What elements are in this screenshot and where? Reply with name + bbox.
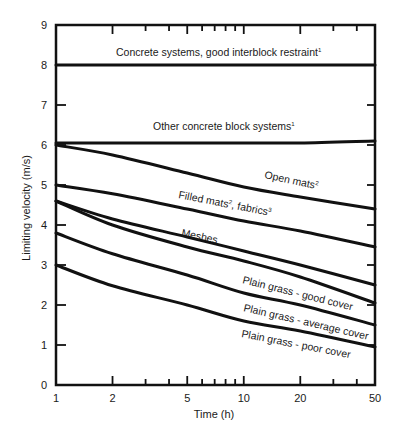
x-axis-label: Time (h) xyxy=(194,408,235,420)
y-tick-label: 4 xyxy=(41,219,47,231)
y-axis-label: Limiting velocity (m/s) xyxy=(20,155,32,261)
x-tick-label: 2 xyxy=(109,392,115,404)
y-tick-label: 2 xyxy=(41,299,47,311)
y-tick-label: 9 xyxy=(41,19,47,31)
y-tick-label: 8 xyxy=(41,59,47,71)
y-tick-label: 1 xyxy=(41,339,47,351)
x-tick-label: 50 xyxy=(369,392,381,404)
series-line-1 xyxy=(56,141,375,143)
series-label-filled-mats: Filled mats2, fabrics3 xyxy=(178,188,273,218)
y-tick-label: 0 xyxy=(41,379,47,391)
x-tick-label: 20 xyxy=(294,392,306,404)
y-tick-label: 3 xyxy=(41,259,47,271)
chart: 1251020500123456789 Time (h) Limiting ve… xyxy=(0,0,400,436)
y-tick-label: 5 xyxy=(41,179,47,191)
y-tick-label: 6 xyxy=(41,139,47,151)
series-label-other-concrete: Other concrete block systems1 xyxy=(153,120,295,132)
series-label-concrete-good: Concrete systems, good interblock restra… xyxy=(116,46,322,58)
y-tick-label: 7 xyxy=(41,99,47,111)
x-tick-label: 10 xyxy=(238,392,250,404)
series-label-open-mats: Open mats2 xyxy=(264,168,321,191)
x-tick-label: 1 xyxy=(53,392,59,404)
series-label-meshes: Meshes xyxy=(181,226,219,245)
x-tick-label: 5 xyxy=(184,392,190,404)
series-line-6 xyxy=(56,233,375,325)
